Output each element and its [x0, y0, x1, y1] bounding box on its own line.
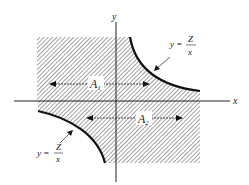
- lower-curve-equation: y = Z x: [36, 142, 63, 164]
- svg-text:y =: y =: [169, 39, 182, 49]
- svg-text:x: x: [55, 154, 60, 164]
- upper-curve-equation: y = Z x: [169, 34, 196, 57]
- region-a2: [38, 101, 200, 163]
- svg-text:y =: y =: [36, 148, 49, 158]
- y-axis-label: y: [111, 11, 117, 22]
- svg-text:Z: Z: [56, 142, 62, 152]
- hyperbola-region-diagram: x y A1 A2 y = Z x y = Z x: [0, 0, 249, 185]
- svg-text:Z: Z: [188, 34, 194, 44]
- x-axis-label: x: [232, 95, 238, 106]
- svg-text:x: x: [187, 47, 192, 57]
